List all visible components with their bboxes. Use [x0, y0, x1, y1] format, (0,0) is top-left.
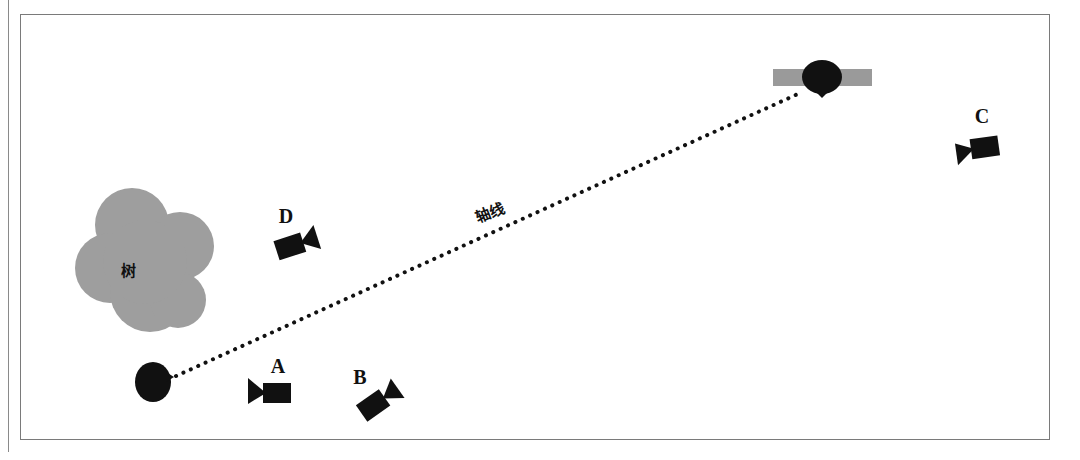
camera-c-label: C	[975, 105, 989, 127]
video-camera-icon	[955, 135, 1001, 165]
blocking-diagram: 树 轴线 A B C D	[0, 0, 1080, 460]
camera-a[interactable]: A	[248, 355, 291, 404]
person-head-icon	[802, 60, 842, 94]
camera-c[interactable]: C	[955, 105, 1001, 165]
camera-b-label: B	[353, 366, 366, 388]
video-camera-icon	[273, 225, 322, 262]
camera-a-label: A	[271, 355, 286, 377]
subject-right	[773, 60, 872, 98]
camera-d-label: D	[279, 205, 293, 227]
video-camera-icon	[248, 378, 291, 404]
camera-d[interactable]: D	[273, 205, 322, 262]
tree-label: 树	[121, 262, 136, 279]
camera-b[interactable]: B	[353, 366, 404, 423]
axis-line	[176, 93, 800, 376]
tree-shape: 树	[75, 188, 214, 332]
person-head-icon	[135, 362, 171, 402]
subject-left	[135, 362, 174, 402]
axis-label: 轴线	[473, 199, 507, 226]
